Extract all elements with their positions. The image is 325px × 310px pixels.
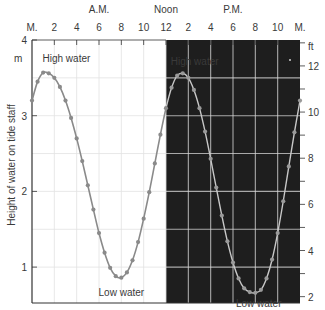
- x-tick-label: 10: [138, 22, 150, 33]
- left-y-axis: 1234: [21, 35, 37, 273]
- data-point: [220, 214, 224, 218]
- period-label: Noon: [154, 4, 178, 15]
- x-tick-label: M.: [294, 22, 305, 33]
- data-point: [281, 199, 285, 203]
- data-point: [30, 98, 34, 102]
- data-point: [276, 231, 280, 235]
- right-tick-label: 6: [308, 199, 314, 210]
- right-unit-label: ft: [308, 41, 314, 52]
- y-axis-title: Height of water on tide staff: [6, 104, 17, 226]
- x-tick-label: 2: [186, 22, 192, 33]
- data-point: [108, 266, 112, 270]
- data-point: [142, 217, 146, 221]
- data-point: [47, 71, 51, 75]
- data-point: [203, 129, 207, 133]
- right-tick-label: 12: [308, 61, 320, 72]
- x-tick-label: 2: [52, 22, 58, 33]
- period-label: A.M.: [89, 4, 110, 15]
- data-point: [287, 164, 291, 168]
- left-tick-label: 3: [21, 111, 27, 122]
- data-point: [214, 186, 218, 190]
- data-point: [58, 85, 62, 89]
- data-point: [270, 257, 274, 261]
- x-tick-label: 6: [230, 22, 236, 33]
- data-point: [41, 70, 45, 74]
- data-point: [35, 80, 39, 84]
- data-point: [186, 76, 190, 80]
- data-point: [158, 133, 162, 137]
- data-point: [248, 290, 252, 294]
- annotation-high-water-am: High water: [43, 53, 91, 64]
- period-label: P.M.: [223, 4, 242, 15]
- data-point: [119, 276, 123, 280]
- data-point: [209, 157, 213, 161]
- data-point: [197, 106, 201, 110]
- data-point: [69, 116, 73, 120]
- data-point: [91, 207, 95, 211]
- x-tick-label: 4: [74, 22, 80, 33]
- data-point: [125, 270, 129, 274]
- data-point: [253, 291, 257, 295]
- annotation-low-water-am: Low water: [99, 287, 145, 298]
- data-point: [181, 71, 185, 75]
- x-tick-label: 10: [272, 22, 284, 33]
- annotation-low-water-pm: Low water: [236, 298, 282, 309]
- x-tick-label: M.: [26, 22, 37, 33]
- right-tick-label: 10: [308, 107, 320, 118]
- x-tick-label: 8: [253, 22, 259, 33]
- data-point: [236, 276, 240, 280]
- data-point: [164, 106, 168, 110]
- data-point: [97, 231, 101, 235]
- left-tick-label: 1: [21, 262, 27, 273]
- data-point: [264, 276, 268, 280]
- right-tick-label: 8: [308, 153, 314, 164]
- annotation-high-water-pm: High water: [171, 56, 219, 67]
- data-point: [136, 240, 140, 244]
- data-point: [292, 130, 296, 134]
- data-point: [175, 73, 179, 77]
- data-point: [225, 239, 229, 243]
- left-tick-label: 2: [21, 186, 27, 197]
- right-y-axis: 24681012: [300, 43, 320, 303]
- x-tick-label: 12: [160, 22, 172, 33]
- data-point: [102, 251, 106, 255]
- right-tick-label: 2: [308, 292, 314, 303]
- period-labels: A.M.NoonP.M.: [89, 4, 243, 15]
- data-point: [169, 86, 173, 90]
- data-point: [52, 76, 56, 80]
- tide-chart: M.24681012246810M. A.M.NoonP.M. 1234 246…: [0, 0, 325, 310]
- data-point: [259, 288, 263, 292]
- speck-mark: [289, 59, 291, 61]
- data-point: [75, 136, 79, 140]
- data-point: [130, 258, 134, 262]
- x-tick-label: 6: [96, 22, 102, 33]
- left-unit-label: m: [14, 53, 22, 64]
- data-point: [153, 161, 157, 165]
- x-tick-label: 8: [119, 22, 125, 33]
- right-tick-label: 4: [308, 246, 314, 257]
- left-tick-label: 4: [21, 35, 27, 46]
- data-point: [298, 98, 302, 102]
- data-point: [192, 88, 196, 92]
- data-point: [147, 190, 151, 194]
- x-tick-label: 4: [208, 22, 214, 33]
- data-point: [63, 98, 67, 102]
- data-point: [231, 260, 235, 264]
- data-point: [80, 159, 84, 163]
- data-point: [242, 286, 246, 290]
- data-point: [114, 274, 118, 278]
- data-point: [86, 183, 90, 187]
